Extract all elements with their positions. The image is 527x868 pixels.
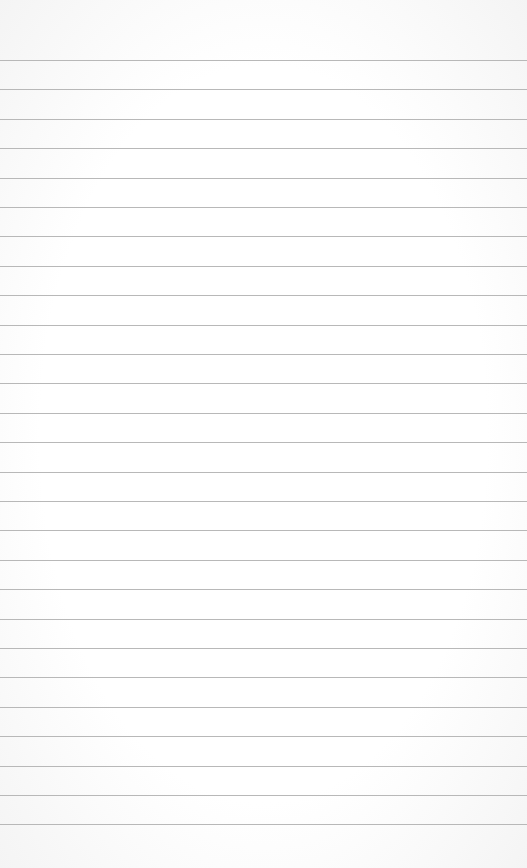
ruled-line xyxy=(0,383,527,384)
ruled-line xyxy=(0,472,527,473)
ruled-line xyxy=(0,325,527,326)
ruled-line xyxy=(0,795,527,796)
ruled-line xyxy=(0,442,527,443)
ruled-line xyxy=(0,677,527,678)
ruled-line xyxy=(0,119,527,120)
ruled-line xyxy=(0,560,527,561)
ruled-line xyxy=(0,413,527,414)
ruled-line xyxy=(0,824,527,825)
ruled-line xyxy=(0,266,527,267)
ruled-line xyxy=(0,207,527,208)
ruled-line xyxy=(0,60,527,61)
ruled-line xyxy=(0,295,527,296)
ruled-line xyxy=(0,707,527,708)
ruled-line xyxy=(0,354,527,355)
ruled-line xyxy=(0,148,527,149)
lined-paper xyxy=(0,0,527,868)
ruled-line xyxy=(0,736,527,737)
ruled-line xyxy=(0,530,527,531)
ruled-line xyxy=(0,236,527,237)
ruled-line xyxy=(0,89,527,90)
ruled-line xyxy=(0,619,527,620)
ruled-line xyxy=(0,766,527,767)
ruled-line xyxy=(0,178,527,179)
ruled-line xyxy=(0,501,527,502)
ruled-line xyxy=(0,589,527,590)
ruled-line xyxy=(0,648,527,649)
